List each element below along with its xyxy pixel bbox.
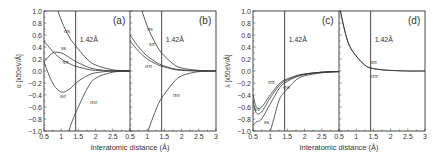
x-tick-label: 1.5 xyxy=(160,133,170,140)
y-tick-label: −0.2 xyxy=(237,80,251,87)
y-tick-label: −0.6 xyxy=(28,104,42,111)
y-tick-label: −0.4 xyxy=(28,92,42,99)
y-tick-label: 0.6 xyxy=(241,32,251,39)
x-tick-label: 0.5 xyxy=(334,133,344,140)
x-tick-label: 1.5 xyxy=(74,133,84,140)
y-tick-label: 0.8 xyxy=(241,20,251,27)
x-tick-label: 2.5 xyxy=(403,133,413,140)
curve-label: σπ xyxy=(145,62,153,69)
y-tick-label: 0.2 xyxy=(32,56,42,63)
y-tick-label: −0.6 xyxy=(237,104,251,111)
x-tick-label: 2 xyxy=(303,133,307,140)
x-tick-label: 1 xyxy=(354,133,358,140)
x-tick-label: 2.5 xyxy=(108,133,118,140)
curve-label: sσ xyxy=(60,92,67,99)
y-tick-label: 1.0 xyxy=(32,8,42,15)
x-tick-label: 3 xyxy=(423,133,427,140)
x-tick-label: 1 xyxy=(268,133,272,140)
curve-σπ xyxy=(130,41,216,71)
annotation-1.42: 1.42Å xyxy=(166,35,185,43)
y-tick-label: 0.0 xyxy=(32,68,42,75)
curve-label: ππ xyxy=(62,58,69,65)
curve-label: σs xyxy=(64,27,71,34)
curve-label: ss xyxy=(61,44,67,51)
annotation-1.42: 1.42Å xyxy=(375,35,394,43)
y-axis-label: λ [x50eV/Å] xyxy=(223,54,232,87)
y-tick-label: 1.0 xyxy=(241,8,251,15)
x-tick-label: 1 xyxy=(59,133,63,140)
panel-label: (a) xyxy=(113,15,125,26)
y-tick-label: −0.4 xyxy=(237,92,251,99)
y-tick-label: 0.6 xyxy=(32,32,42,39)
y-tick-label: −1.0 xyxy=(237,128,251,135)
x-tick-label: 2.5 xyxy=(194,133,204,140)
x-tick-label: 2 xyxy=(94,133,98,140)
x-tick-label: 2.5 xyxy=(317,133,327,140)
x-tick-label: 3 xyxy=(214,133,218,140)
y-tick-label: −0.8 xyxy=(28,116,42,123)
curve-label: πs xyxy=(147,25,153,32)
x-tick-label: 2 xyxy=(389,133,393,140)
x-axis-label: Interatomic distance (Å) xyxy=(299,143,379,152)
curve-label: σσ xyxy=(90,98,98,105)
panel-label: (d) xyxy=(408,15,420,26)
y-tick-label: 0.0 xyxy=(241,68,251,75)
curve-label: πσ xyxy=(173,91,180,98)
y-tick-label: 0.2 xyxy=(241,56,251,63)
panel-label: (c) xyxy=(322,15,334,26)
curve-label: σπ xyxy=(371,72,379,79)
curve-label: sπ xyxy=(149,40,156,47)
panel-label: (b) xyxy=(199,15,211,26)
curve-label: σσ xyxy=(283,83,291,90)
x-tick-label: 1.5 xyxy=(283,133,293,140)
figure: 0.511.522.50.511.522.530.511.522.50.511.… xyxy=(0,0,440,159)
annotation-1.42: 1.42Å xyxy=(289,35,308,43)
curve-label: sσ xyxy=(254,105,261,112)
y-tick-label: −0.2 xyxy=(28,80,42,87)
y-tick-label: −0.8 xyxy=(237,116,251,123)
x-tick-label: 2 xyxy=(180,133,184,140)
y-axis-label: α [x50eV/Å] xyxy=(14,54,23,88)
x-tick-label: 1.5 xyxy=(369,133,379,140)
y-tick-label: 0.4 xyxy=(32,44,42,51)
y-tick-label: 0.8 xyxy=(32,20,42,27)
curve-label: ss xyxy=(264,118,270,125)
y-tick-label: 0.4 xyxy=(241,44,251,51)
curve-label: ππ xyxy=(268,78,275,85)
x-tick-label: 1 xyxy=(145,133,149,140)
x-axis-label: Interatomic distance (Å) xyxy=(90,143,170,152)
annotation-1.42: 1.42Å xyxy=(80,35,99,43)
y-tick-label: −1.0 xyxy=(28,128,42,135)
x-tick-label: 0.5 xyxy=(125,133,135,140)
curve-label: sπ xyxy=(371,58,378,65)
curve-sσ xyxy=(253,72,339,114)
